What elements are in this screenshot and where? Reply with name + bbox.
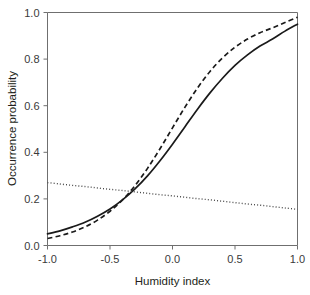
x-tick-label: 0.5 <box>227 253 242 265</box>
y-tick-label: 1.0 <box>24 7 39 19</box>
x-axis-title: Humidity index <box>135 275 211 287</box>
occurrence-probability-chart: 0.00.20.40.60.81.0 -1.0-0.50.00.51.0 Hum… <box>0 0 310 295</box>
y-tick-label: 0.8 <box>24 53 39 65</box>
y-tick-label: 0.0 <box>24 240 39 252</box>
x-tick-label: -1.0 <box>38 253 57 265</box>
y-axis-title: Occurrence probability <box>6 71 18 186</box>
y-tick-label: 0.2 <box>24 193 39 205</box>
x-tick-label: -0.5 <box>101 253 120 265</box>
x-tick-label: 0.0 <box>165 253 180 265</box>
y-tick-label: 0.6 <box>24 100 39 112</box>
chart-figure: 0.00.20.40.60.81.0 -1.0-0.50.00.51.0 Hum… <box>0 0 310 295</box>
y-tick-label: 0.4 <box>24 146 39 158</box>
x-tick-label: 1.0 <box>290 253 305 265</box>
